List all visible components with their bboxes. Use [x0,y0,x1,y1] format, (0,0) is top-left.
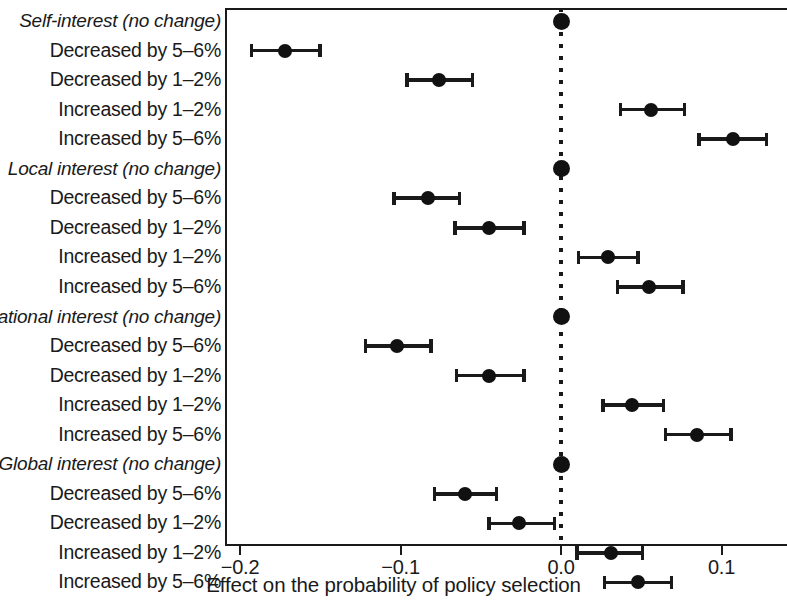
ci-upper-cap [765,133,768,146]
estimate-row: Self-interest (no change) [0,6,787,36]
x-axis-tick [560,546,562,555]
estimate-point-marker [604,546,618,560]
group-reference-label: Global interest (no change) [0,449,221,479]
ci-lower-cap [601,399,604,412]
category-label: Decreased by 5–6% [50,183,221,213]
ci-lower-cap [433,487,436,500]
estimate-point-marker [482,221,496,235]
estimate-row: Decreased by 1–2% [0,65,787,95]
estimate-row: National interest (no change) [0,302,787,332]
estimate-row: Decreased by 5–6% [0,36,787,66]
estimate-point-marker [458,487,472,501]
ci-upper-cap [471,73,474,86]
ci-lower-cap [250,44,253,57]
estimate-row: Decreased by 5–6% [0,479,787,509]
reference-point-marker [553,13,570,30]
ci-upper-cap [681,280,684,293]
category-label: Increased by 1–2% [58,95,221,125]
ci-upper-cap [495,487,498,500]
category-label: Decreased by 5–6% [50,331,221,361]
category-label: Decreased by 5–6% [50,479,221,509]
group-reference-label: Local interest (no change) [8,154,221,184]
ci-upper-cap [522,369,525,382]
estimate-row: Local interest (no change) [0,154,787,184]
estimate-point-marker [601,250,615,264]
category-label: Decreased by 1–2% [50,361,221,391]
estimate-point-marker [625,398,639,412]
estimate-point-marker [421,191,435,205]
ci-upper-cap [318,44,321,57]
estimate-point-marker [690,428,704,442]
estimate-row: Increased by 5–6% [0,124,787,154]
ci-lower-cap [619,103,622,116]
ci-lower-cap [616,280,619,293]
ci-upper-cap [553,517,556,530]
ci-lower-cap [487,517,490,530]
ci-upper-cap [641,546,644,559]
estimate-row: Decreased by 5–6% [0,183,787,213]
ci-upper-cap [458,192,461,205]
estimate-row: Increased by 5–6% [0,272,787,302]
estimate-point-marker [278,44,292,58]
coefficient-plot-figure: Self-interest (no change)Decreased by 5–… [0,0,787,606]
category-label: Increased by 5–6% [58,124,221,154]
x-axis-label: Effect on the probability of policy sele… [0,573,787,597]
category-label: Increased by 1–2% [58,538,221,568]
x-axis-tick [400,546,402,555]
category-label: Increased by 1–2% [58,242,221,272]
estimate-point-marker [512,516,526,530]
estimate-row: Increased by 1–2% [0,390,787,420]
ci-lower-cap [664,428,667,441]
ci-lower-cap [392,192,395,205]
estimate-row: Decreased by 1–2% [0,213,787,243]
ci-lower-cap [405,73,408,86]
ci-lower-cap [455,369,458,382]
x-axis-tick [239,546,241,555]
estimate-row: Decreased by 1–2% [0,508,787,538]
estimate-row: Global interest (no change) [0,449,787,479]
category-label: Decreased by 1–2% [50,65,221,95]
category-label: Increased by 5–6% [58,420,221,450]
estimate-point-marker [390,339,404,353]
x-axis-tick [721,546,723,555]
estimate-row: Increased by 1–2% [0,242,787,272]
ci-lower-cap [364,339,367,352]
estimate-row: Increased by 5–6% [0,420,787,450]
ci-upper-cap [522,221,525,234]
reference-point-marker [553,308,570,325]
reference-point-marker [553,456,570,473]
estimate-row: Increased by 1–2% [0,95,787,125]
ci-upper-cap [729,428,732,441]
estimate-point-marker [642,280,656,294]
ci-upper-cap [662,399,665,412]
estimate-point-marker [432,73,446,87]
group-reference-label: Self-interest (no change) [19,6,221,36]
ci-upper-cap [636,251,639,264]
ci-upper-cap [683,103,686,116]
ci-lower-cap [575,546,578,559]
category-label: Decreased by 1–2% [50,508,221,538]
category-label: Decreased by 1–2% [50,213,221,243]
ci-upper-cap [429,339,432,352]
estimate-row: Decreased by 5–6% [0,331,787,361]
group-reference-label: National interest (no change) [0,302,221,332]
reference-point-marker [553,160,570,177]
estimate-row: Decreased by 1–2% [0,361,787,391]
ci-lower-cap [453,221,456,234]
estimate-point-marker [482,369,496,383]
ci-lower-cap [697,133,700,146]
category-label: Increased by 1–2% [58,390,221,420]
category-label: Decreased by 5–6% [50,36,221,66]
estimate-point-marker [726,132,740,146]
ci-lower-cap [577,251,580,264]
category-label: Increased by 5–6% [58,272,221,302]
estimate-point-marker [644,103,658,117]
